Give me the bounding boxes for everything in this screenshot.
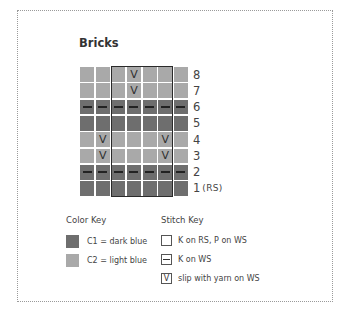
- dash-icon: [161, 106, 170, 108]
- chart-cell: [111, 116, 125, 131]
- chart-cell: V: [127, 67, 141, 82]
- chart-cell: [111, 181, 125, 196]
- chart-cell: [111, 100, 125, 115]
- color-key-heading: Color Key: [66, 215, 106, 225]
- chart-cell: [80, 83, 94, 98]
- row-number-labels: 87654321(RS): [193, 67, 253, 196]
- chart-cell: [127, 132, 141, 147]
- row-label: 8: [193, 67, 253, 83]
- empty-box-icon: [161, 235, 172, 246]
- stitch-key-item-knit: K on RS, P on WS: [161, 235, 247, 246]
- chart-cell: [96, 83, 110, 98]
- chart-cell: [174, 83, 188, 98]
- chart-title: Bricks: [79, 36, 119, 50]
- dash-icon: [114, 106, 123, 108]
- chart-cell: V: [127, 83, 141, 98]
- chart-cell: [127, 165, 141, 180]
- chart-cell: [80, 67, 94, 82]
- dash-icon: [83, 106, 92, 108]
- dash-icon: [145, 171, 154, 173]
- chart-cell: [127, 100, 141, 115]
- chart-cell: [80, 100, 94, 115]
- chart-cell: [158, 181, 172, 196]
- chart-cell: [80, 181, 94, 196]
- chart-cell: [143, 181, 157, 196]
- dash-icon: [176, 171, 185, 173]
- chart-cell: [111, 83, 125, 98]
- stitch-key-label: K on WS: [178, 255, 211, 264]
- chart-cell: [96, 165, 110, 180]
- chart-cell: [158, 100, 172, 115]
- chart-cell: V: [158, 132, 172, 147]
- dash-icon: [176, 106, 185, 108]
- chart-cell: [174, 181, 188, 196]
- chart-cell: [143, 116, 157, 131]
- chart-cell: [96, 116, 110, 131]
- dash-icon: [161, 171, 170, 173]
- chart-cell: [174, 165, 188, 180]
- chart-cell: [80, 165, 94, 180]
- stitch-key-label: slip with yarn on WS: [178, 274, 260, 283]
- dash-icon: [129, 106, 138, 108]
- color-key-label: C1 = dark blue: [87, 237, 147, 246]
- row-label: 5: [193, 115, 253, 131]
- chart-cell: [143, 132, 157, 147]
- chart-cell: [80, 149, 94, 164]
- row-label: 3: [193, 148, 253, 164]
- color-key-item-c1: C1 = dark blue: [66, 235, 147, 248]
- chart-cell: [143, 67, 157, 82]
- knitting-chart-grid: VVVVVV: [80, 67, 188, 196]
- chart-cell: [111, 149, 125, 164]
- stitch-key-heading: Stitch Key: [161, 215, 204, 225]
- row-label: 2: [193, 164, 253, 180]
- chart-cell: [143, 165, 157, 180]
- stitch-key-label: K on RS, P on WS: [178, 236, 247, 245]
- rs-label: (RS): [202, 183, 222, 193]
- color-key-label: C2 = light blue: [87, 256, 147, 265]
- c2-swatch: [66, 254, 79, 267]
- stitch-key-item-slip: V slip with yarn on WS: [161, 273, 260, 284]
- chart-cell: [174, 67, 188, 82]
- chart-cell: [143, 149, 157, 164]
- chart-cell: [96, 67, 110, 82]
- chart-cell: [96, 181, 110, 196]
- dash-icon: [114, 171, 123, 173]
- chart-cell: [80, 116, 94, 131]
- chart-cell: [111, 165, 125, 180]
- chart-cell: [158, 165, 172, 180]
- row-label: 4: [193, 132, 253, 148]
- color-key-item-c2: C2 = light blue: [66, 254, 147, 267]
- chart-cell: [127, 116, 141, 131]
- chart-cell: [174, 100, 188, 115]
- chart-cell: [174, 116, 188, 131]
- chart-cell: V: [158, 149, 172, 164]
- chart-cell: [127, 149, 141, 164]
- chart-cell: [111, 67, 125, 82]
- row-label: 7: [193, 83, 253, 99]
- dash-icon: [129, 171, 138, 173]
- chart-cell: [80, 132, 94, 147]
- chart-cell: [143, 83, 157, 98]
- dash-icon: [145, 106, 154, 108]
- dash-box-icon: [161, 254, 172, 265]
- dash-icon: [98, 171, 107, 173]
- chart-cell: V: [96, 149, 110, 164]
- stitch-key-item-purl-ws: K on WS: [161, 254, 211, 265]
- v-box-icon: V: [161, 273, 172, 284]
- chart-cell: [96, 100, 110, 115]
- dash-icon: [98, 106, 107, 108]
- row-label: 1(RS): [193, 180, 253, 196]
- chart-cell: [174, 149, 188, 164]
- chart-cell: [158, 67, 172, 82]
- chart-cell: V: [96, 132, 110, 147]
- chart-cell: [158, 83, 172, 98]
- chart-cell: [111, 132, 125, 147]
- row-label: 6: [193, 99, 253, 115]
- dash-icon: [83, 171, 92, 173]
- chart-cell: [158, 116, 172, 131]
- chart-cell: [127, 181, 141, 196]
- chart-cell: [143, 100, 157, 115]
- chart-cell: [174, 132, 188, 147]
- c1-swatch: [66, 235, 79, 248]
